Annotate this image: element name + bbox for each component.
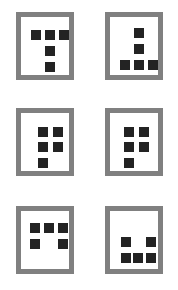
pattern-square — [30, 223, 40, 233]
pattern-square — [31, 30, 41, 40]
pattern-square — [53, 142, 63, 152]
pattern-square — [139, 142, 149, 152]
pattern-cell — [16, 108, 74, 176]
pattern-square — [45, 62, 55, 72]
pattern-square — [124, 142, 134, 152]
pattern-cell — [16, 206, 74, 274]
pattern-square — [134, 60, 144, 70]
pattern-square — [139, 127, 149, 137]
pattern-cell-interior — [21, 211, 69, 269]
pattern-cell — [105, 12, 163, 80]
pattern-cell-interior — [110, 211, 158, 269]
pattern-figure — [0, 0, 178, 290]
pattern-square — [146, 253, 156, 263]
pattern-cell-interior — [110, 113, 158, 171]
pattern-square — [38, 142, 48, 152]
pattern-square — [58, 223, 68, 233]
pattern-square — [134, 28, 144, 38]
pattern-square — [44, 223, 54, 233]
pattern-square — [45, 30, 55, 40]
pattern-square — [146, 237, 156, 247]
pattern-cell-interior — [110, 17, 158, 75]
pattern-square — [121, 253, 131, 263]
pattern-square — [45, 46, 55, 56]
pattern-square — [133, 253, 143, 263]
pattern-square — [30, 239, 40, 249]
pattern-square — [148, 60, 158, 70]
pattern-square — [58, 239, 68, 249]
pattern-cell-interior — [21, 113, 69, 171]
pattern-square — [124, 158, 134, 168]
pattern-square — [38, 127, 48, 137]
pattern-cell — [16, 12, 74, 80]
pattern-square — [120, 60, 130, 70]
pattern-cell — [105, 206, 163, 274]
pattern-square — [121, 237, 131, 247]
pattern-square — [134, 44, 144, 54]
pattern-square — [59, 30, 69, 40]
pattern-square — [124, 127, 134, 137]
pattern-cell-interior — [21, 17, 69, 75]
pattern-square — [38, 158, 48, 168]
pattern-cell — [105, 108, 163, 176]
pattern-square — [53, 127, 63, 137]
